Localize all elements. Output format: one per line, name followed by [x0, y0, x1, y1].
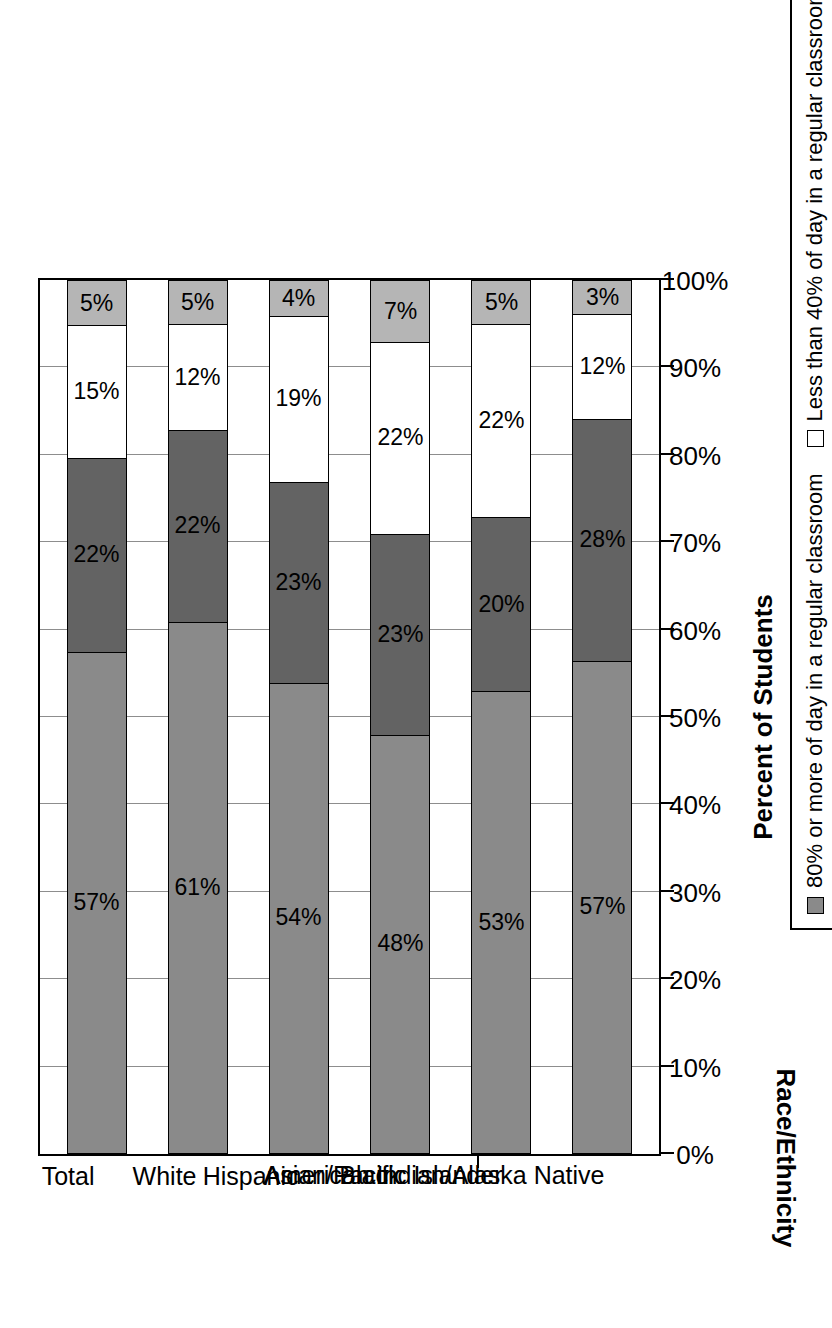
bar-segment[interactable]: 22%: [471, 325, 531, 517]
legend-item[interactable]: 80% or more of day in a regular classroo…: [802, 473, 828, 914]
bar-segment[interactable]: 61%: [168, 623, 228, 1154]
bar-segment[interactable]: 12%: [168, 325, 228, 430]
legend-item[interactable]: Less than 40% of day in a regular classr…: [802, 0, 828, 447]
bar-segment[interactable]: 12%: [572, 315, 632, 419]
bar-segment-value-label: 3%: [586, 284, 619, 311]
bar-segment[interactable]: 15%: [67, 326, 127, 459]
bar-segment[interactable]: 5%: [67, 280, 127, 326]
x-axis-tick-label: 100%: [662, 266, 729, 297]
y-axis-labels: TotalWhiteHispanicBlackAsian/Pacific Isl…: [38, 1160, 661, 1328]
bar-segment-value-label: 22%: [478, 408, 524, 435]
bar-segment[interactable]: 54%: [269, 684, 329, 1154]
bar-segment-value-label: 5%: [80, 289, 113, 316]
x-axis-tick-label: 20%: [669, 965, 721, 996]
bar-segment[interactable]: 4%: [269, 280, 329, 317]
legend-swatch: [807, 430, 824, 447]
bar-segment[interactable]: 22%: [67, 459, 127, 653]
plot-area: 57%22%15%5%61%22%12%5%54%23%19%4%48%23%2…: [38, 278, 661, 1156]
bar-segment-value-label: 57%: [74, 889, 120, 916]
bar-segment-value-label: 20%: [478, 591, 524, 618]
bar-segment[interactable]: 5%: [471, 280, 531, 325]
bar-row[interactable]: 53%20%22%5%: [471, 280, 531, 1154]
bar-segment-value-label: 53%: [478, 909, 524, 936]
y-axis-category-label: Total: [65, 1160, 125, 1328]
bar-segment[interactable]: 22%: [168, 431, 228, 623]
bar-segment[interactable]: 53%: [471, 692, 531, 1154]
y-axis-category-text: Total: [42, 1162, 95, 1191]
legend-label: 80% or more of day in a regular classroo…: [802, 473, 828, 888]
bar-segment-value-label: 19%: [276, 386, 322, 413]
bar-segment[interactable]: 23%: [370, 535, 430, 736]
bar-segment-value-label: 22%: [377, 425, 423, 452]
bar-segment[interactable]: 23%: [269, 483, 329, 684]
x-axis-tick-label: 30%: [669, 878, 721, 909]
bar-segment[interactable]: 5%: [168, 280, 228, 325]
x-axis-tick-label: 60%: [669, 616, 721, 647]
bar-segment-value-label: 28%: [579, 527, 625, 554]
bar-segment[interactable]: 28%: [572, 420, 632, 662]
bar-segment-value-label: 12%: [579, 353, 625, 380]
bar-segment-value-label: 5%: [485, 289, 518, 316]
bar-segment-value-label: 57%: [579, 894, 625, 921]
x-axis-tick-label: 70%: [669, 528, 721, 559]
x-axis-tick-label: 40%: [669, 790, 721, 821]
y-axis-tick: [477, 1156, 479, 1168]
chart-legend: 80% or more of day in a regular classroo…: [790, 0, 832, 930]
y-axis-category-text: White: [133, 1162, 197, 1191]
x-axis-tick-label: 50%: [669, 703, 721, 734]
bar-segment-value-label: 23%: [276, 569, 322, 596]
x-axis-tick-label: 0%: [676, 1140, 714, 1171]
x-axis-tick: [661, 1152, 674, 1154]
bar-segment-value-label: 54%: [276, 905, 322, 932]
bar-segment-value-label: 48%: [377, 931, 423, 958]
bar-segment-value-label: 15%: [74, 378, 120, 405]
bar-segment[interactable]: 3%: [572, 280, 632, 315]
x-axis-tick-label: 80%: [669, 441, 721, 472]
bar-row[interactable]: 48%23%22%7%: [370, 280, 430, 1154]
bar-segment[interactable]: 57%: [67, 653, 127, 1154]
bar-segment[interactable]: 48%: [370, 736, 430, 1154]
legend-label: Less than 40% of day in a regular classr…: [802, 0, 828, 421]
bar-row[interactable]: 61%22%12%5%: [168, 280, 228, 1154]
bar-segment[interactable]: 57%: [572, 662, 632, 1154]
bar-segment-value-label: 5%: [181, 289, 214, 316]
bar-segment[interactable]: 22%: [370, 343, 430, 535]
bar-series-container: 57%22%15%5%61%22%12%5%54%23%19%4%48%23%2…: [40, 280, 659, 1154]
legend-swatch: [807, 897, 824, 914]
y-axis-category-label: American Indian/Alaska Native: [574, 1160, 634, 1328]
bar-row[interactable]: 57%28%12%3%: [572, 280, 632, 1154]
bar-segment[interactable]: 20%: [471, 518, 531, 693]
bar-segment-value-label: 61%: [175, 874, 221, 901]
rotated-figure-wrapper: Race/Ethnicity TotalWhiteHispanicBlackAs…: [0, 0, 832, 1328]
bar-segment-value-label: 22%: [74, 542, 120, 569]
bar-segment-value-label: 7%: [383, 298, 416, 325]
bar-row[interactable]: 57%22%15%5%: [67, 280, 127, 1154]
bar-row[interactable]: 54%23%19%4%: [269, 280, 329, 1154]
bar-segment[interactable]: 7%: [370, 280, 430, 343]
bar-segment-value-label: 4%: [282, 285, 315, 312]
chart-figure: Race/Ethnicity TotalWhiteHispanicBlackAs…: [0, 0, 832, 1328]
x-axis-tick-label: 10%: [669, 1053, 721, 1084]
bar-segment-value-label: 12%: [175, 364, 221, 391]
bar-segment-value-label: 23%: [377, 621, 423, 648]
bar-segment[interactable]: 19%: [269, 317, 329, 483]
bar-segment-value-label: 22%: [175, 513, 221, 540]
y-axis-category-text: American Indian/Alaska Native: [264, 1162, 604, 1191]
x-axis-tick-label: 90%: [669, 353, 721, 384]
x-axis-title: Percent of Students: [748, 278, 779, 1156]
